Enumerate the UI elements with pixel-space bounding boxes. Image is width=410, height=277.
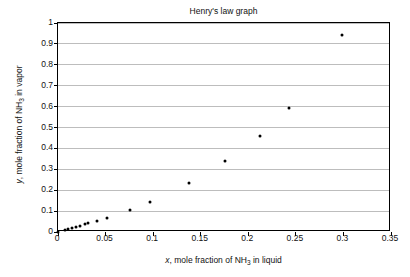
- chart-title: Henry's law graph: [57, 6, 390, 16]
- data-point: [63, 228, 66, 231]
- y-axis-tick-labels: 00.10.20.30.40.50.60.70.80.91: [26, 22, 53, 231]
- y-tick-mark: [54, 190, 58, 191]
- y-axis-title-text-b: in vapor: [14, 66, 24, 99]
- gridline-horizontal: [58, 23, 389, 24]
- gridline-horizontal: [58, 43, 389, 44]
- chart-figure: Henry's law graph 00.10.20.30.40.50.60.7…: [0, 0, 410, 277]
- data-point: [129, 209, 132, 212]
- gridline-horizontal: [58, 127, 389, 128]
- y-tick-mark: [54, 85, 58, 86]
- data-point: [75, 225, 78, 228]
- gridline-horizontal: [58, 211, 389, 212]
- gridline-horizontal: [58, 106, 389, 107]
- y-tick-label: 0.2: [41, 185, 53, 194]
- data-point: [288, 106, 291, 109]
- y-axis-subscript: 3: [18, 98, 25, 102]
- x-tick-label: 0: [55, 234, 60, 243]
- y-tick-label: 0.9: [41, 38, 53, 47]
- x-tick-label: 0.05: [96, 234, 113, 243]
- x-tick-label: 0.35: [382, 234, 399, 243]
- x-tick-label: 0.1: [146, 234, 158, 243]
- gridline-horizontal: [58, 148, 389, 149]
- y-tick-label: 0.6: [41, 101, 53, 110]
- x-axis-title-text-b: in liquid: [251, 255, 282, 265]
- y-tick-label: 0.4: [41, 143, 53, 152]
- data-point: [149, 200, 152, 203]
- y-axis-title: y, mole fraction of NH3 in vapor: [14, 15, 27, 235]
- data-point: [258, 134, 261, 137]
- x-tick-label: 0.15: [191, 234, 208, 243]
- gridline-horizontal: [58, 169, 389, 170]
- y-tick-mark: [54, 148, 58, 149]
- y-tick-label: 0.5: [41, 122, 53, 131]
- data-point: [67, 227, 70, 230]
- y-tick-mark: [54, 64, 58, 65]
- y-tick-mark: [54, 211, 58, 212]
- data-point: [83, 223, 86, 226]
- data-point: [224, 159, 227, 162]
- data-point: [105, 216, 108, 219]
- data-point: [87, 222, 90, 225]
- data-point: [340, 34, 343, 37]
- gridline-horizontal: [58, 85, 389, 86]
- y-tick-label: 0.8: [41, 59, 53, 68]
- gridline-horizontal: [58, 190, 389, 191]
- x-tick-label: 0.2: [241, 234, 253, 243]
- data-point: [78, 224, 81, 227]
- data-point: [71, 226, 74, 229]
- y-tick-label: 0.3: [41, 164, 53, 173]
- plot-area: [57, 22, 390, 231]
- y-tick-mark: [54, 169, 58, 170]
- x-axis-title: x, mole fraction of NH3 in liquid: [57, 255, 390, 268]
- y-axis-variable: y: [14, 179, 24, 183]
- data-point: [188, 181, 191, 184]
- y-tick-label: 1: [48, 18, 53, 27]
- x-tick-label: 0.25: [287, 234, 304, 243]
- y-axis-title-text-a: , mole fraction of NH: [14, 102, 24, 179]
- x-tick-label: 0.3: [337, 234, 349, 243]
- y-tick-mark: [54, 43, 58, 44]
- y-tick-label: 0.7: [41, 80, 53, 89]
- y-tick-mark: [54, 127, 58, 128]
- y-tick-label: 0: [48, 227, 53, 236]
- y-tick-label: 0.1: [41, 206, 53, 215]
- y-tick-mark: [54, 23, 58, 24]
- x-axis-tick-labels: 00.050.10.150.20.250.30.35: [57, 234, 390, 246]
- x-axis-title-text-a: , mole fraction of NH: [169, 255, 246, 265]
- gridline-horizontal: [58, 64, 389, 65]
- data-point: [96, 219, 99, 222]
- y-tick-mark: [54, 106, 58, 107]
